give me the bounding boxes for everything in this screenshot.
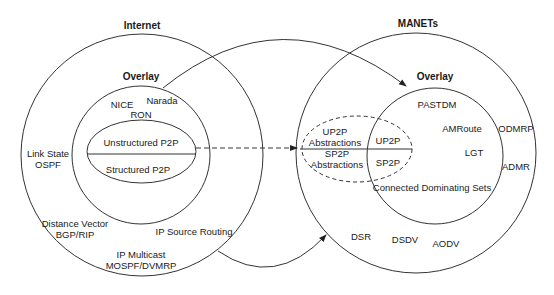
internet-overlay-circle <box>72 86 210 224</box>
up2p-label: UP2P <box>376 135 401 146</box>
sp2p-abstractions-label: SP2PAbstractions <box>311 148 363 170</box>
distance-vector-label: Distance VectorBGP/RIP <box>42 218 109 240</box>
sp2p-label: SP2P <box>376 157 400 168</box>
unstructured-p2p-label: Unstructured P2P <box>104 137 179 148</box>
routing-dsdv: DSDV <box>392 234 418 245</box>
up2p-abstractions-label: UP2PAbstractions <box>309 126 361 148</box>
overlay-item-pastdm: PASTDM <box>418 99 457 110</box>
routing-odmrp: ODMRP <box>498 123 533 134</box>
routing-mapping-arrow <box>218 235 326 267</box>
structured-p2p-label: Structured P2P <box>106 164 170 175</box>
routing-dsr: DSR <box>351 231 371 242</box>
routing-admr: ADMR <box>502 161 530 172</box>
overlay-item-amroute: AMRoute <box>442 123 482 134</box>
internet-overlay-title: Overlay <box>123 71 160 82</box>
internet-title: Internet <box>124 20 161 31</box>
overlay-mapping-arrow <box>163 39 406 88</box>
routing-aodv: AODV <box>433 238 460 249</box>
overlay-item-lgt: LGT <box>465 147 483 158</box>
link-state-label: Link StateOSPF <box>27 148 69 170</box>
ip-source-routing-label: IP Source Routing <box>156 226 233 237</box>
manets-title: MANETs <box>398 18 438 29</box>
manets-overlay-title: Overlay <box>417 71 454 82</box>
overlay-item-narada: Narada <box>146 95 177 106</box>
ip-multicast-label: IP MulticastMOSPF/DVMRP <box>106 249 177 271</box>
overlay-item-ron: RON <box>130 109 151 120</box>
overlay-item-cds: Connected Dominating Sets <box>373 182 491 193</box>
